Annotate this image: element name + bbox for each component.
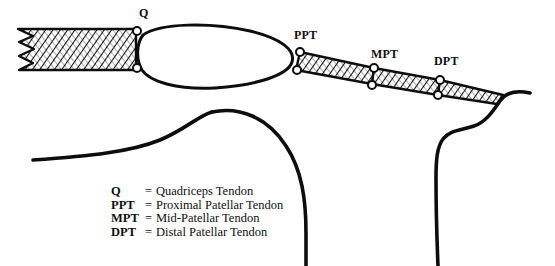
junction-node-q-superior [133, 27, 141, 35]
legend-term: Proximal Patellar Tendon [156, 199, 283, 213]
junction-node-dpt-inferior [434, 91, 442, 99]
tibia-outline [436, 92, 530, 266]
quadriceps-tendon-band [18, 29, 136, 70]
junction-node-mpt-inferior [368, 81, 376, 89]
marker-label-ppt: PPT [294, 28, 317, 43]
junction-node-ppt-superior [296, 48, 304, 56]
mid-patellar-tendon-hatch-overlay [372, 68, 440, 95]
junction-node-mpt-superior [370, 64, 378, 72]
legend-term: Mid-Patellar Tendon [156, 212, 259, 226]
legend-equals: = [145, 226, 156, 240]
legend-row: PPT = Proximal Patellar Tendon [111, 199, 283, 213]
legend-term: Quadriceps Tendon [156, 185, 253, 199]
patellar-tendon-band [296, 52, 503, 104]
quadriceps-tendon-shape-overlay [18, 29, 136, 70]
marker-label-q: Q [139, 6, 149, 21]
legend-equals: = [145, 185, 156, 199]
legend-equals: = [145, 212, 156, 226]
junction-node-dpt-superior [436, 76, 444, 84]
legend-term: Distal Patellar Tendon [156, 226, 267, 240]
legend-abbr: DPT [111, 226, 145, 240]
legend-row: DPT = Distal Patellar Tendon [111, 226, 283, 240]
legend-abbr: Q [111, 185, 145, 199]
marker-label-mpt: MPT [371, 47, 398, 62]
legend: Q = Quadriceps Tendon PPT = Proximal Pat… [111, 185, 283, 239]
legend-abbr: MPT [111, 212, 145, 226]
legend-equals: = [145, 199, 156, 213]
proximal-patellar-tendon-hatch-overlay [296, 52, 374, 84]
anatomy-figure: Q PPT MPT DPT Q = Quadriceps Tendon PPT … [0, 0, 555, 266]
patella-outline [138, 25, 293, 88]
legend-row: Q = Quadriceps Tendon [111, 185, 283, 199]
junction-node-ppt-inferior [293, 66, 301, 74]
junction-node-q-inferior [133, 64, 141, 72]
tibial-tuberosity-curve [436, 92, 530, 266]
femur-shaft-curve [33, 112, 212, 160]
marker-label-dpt: DPT [434, 54, 459, 69]
patella-shape [138, 25, 293, 88]
legend-abbr: PPT [111, 199, 145, 213]
legend-row: MPT = Mid-Patellar Tendon [111, 212, 283, 226]
